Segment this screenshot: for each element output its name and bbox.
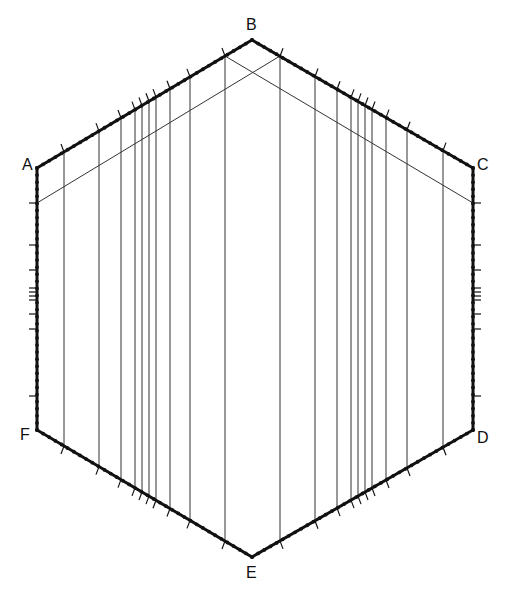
vertical-construction-lines (64, 56, 443, 541)
hexagon-outline (37, 40, 473, 557)
vertex-label-b: B (246, 17, 257, 33)
hexagon-diagram (0, 0, 510, 600)
vertex-label-d: D (477, 430, 489, 446)
vertex-label-c: C (477, 157, 489, 173)
vertex-label-a: A (22, 157, 33, 173)
vertex-label-f: F (20, 427, 30, 443)
edge-tick-marks (29, 48, 481, 549)
edge-dots (35, 38, 475, 559)
vertex-label-e: E (246, 565, 257, 581)
